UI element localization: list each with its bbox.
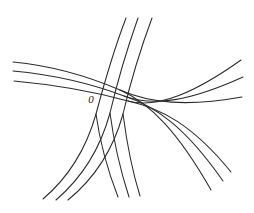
- figure-background: [0, 0, 254, 213]
- figure-canvas: 0: [0, 0, 254, 213]
- origin-label: 0: [88, 93, 94, 105]
- coordinate-net-diagram: 0: [0, 0, 254, 213]
